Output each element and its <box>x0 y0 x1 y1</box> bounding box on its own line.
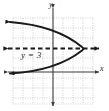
equation-label: y = 3 <box>21 50 42 60</box>
graph-figure: y = 3 y x <box>0 0 109 111</box>
y-axis-label: y <box>49 1 53 9</box>
coordinate-plane <box>0 0 109 111</box>
x-axis-label: x <box>100 65 104 73</box>
